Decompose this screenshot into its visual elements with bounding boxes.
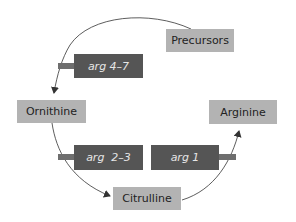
metabolite-label: Precursors (171, 34, 229, 47)
gene-tab (58, 154, 75, 160)
gene-label: arg 1 (171, 151, 200, 164)
pathway-diagram: Precursors arg 4–7 Ornithine Arginine ar… (0, 0, 296, 222)
gene-tab (58, 63, 75, 69)
gene-label: arg 4–7 (88, 60, 129, 73)
metabolite-label: Citrulline (122, 192, 171, 205)
metabolite-precursors: Precursors (166, 29, 234, 52)
metabolite-label: Ornithine (26, 105, 77, 118)
gene-label: arg 2–3 (86, 151, 131, 164)
metabolite-citrulline: Citrulline (113, 187, 181, 210)
gene-box-arg1: arg 1 (151, 145, 219, 170)
gene-box-arg4-7: arg 4–7 (74, 54, 143, 78)
gene-tab (219, 154, 236, 160)
metabolite-arginine: Arginine (209, 100, 277, 124)
metabolite-ornithine: Ornithine (17, 100, 86, 123)
metabolite-label: Arginine (220, 106, 266, 119)
gene-box-arg2-3: arg 2–3 (74, 145, 143, 170)
